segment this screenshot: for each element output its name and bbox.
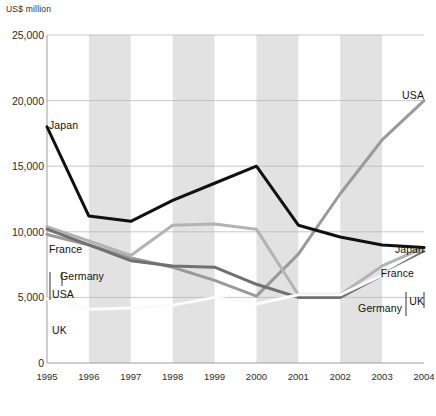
series-label-left-japan: Japan (49, 119, 78, 131)
x-axis-tick-1996: 1996 (78, 371, 99, 382)
series-label-right-germany: Germany (358, 302, 402, 314)
series-label-right-japan: Japan (395, 243, 424, 255)
series-label-right-uk: UK (409, 295, 424, 307)
x-axis-tick-2000: 2000 (246, 371, 267, 382)
series-label-left-uk: UK (52, 324, 67, 336)
x-axis-tick-2003: 2003 (372, 371, 393, 382)
x-axis-tick-1998: 1998 (162, 371, 183, 382)
x-axis-tick-2002: 2002 (330, 371, 351, 382)
series-label-right-usa: USA (402, 89, 424, 101)
series-label-left-france: France (49, 243, 82, 255)
series-label-left-usa: USA (52, 288, 74, 300)
series-label-left-germany: Germany (60, 270, 104, 282)
x-axis-tick-labels: 1995199619971998199920002001200220032004 (0, 0, 436, 416)
x-axis-tick-1999: 1999 (204, 371, 225, 382)
x-axis-tick-2001: 2001 (288, 371, 309, 382)
x-axis-tick-2004: 2004 (413, 371, 434, 382)
line-chart: US$ million 05,00010,00015,00020,00025,0… (0, 0, 436, 416)
x-axis-tick-1997: 1997 (120, 371, 141, 382)
series-label-right-france: France (381, 267, 414, 279)
x-axis-tick-1995: 1995 (36, 371, 57, 382)
